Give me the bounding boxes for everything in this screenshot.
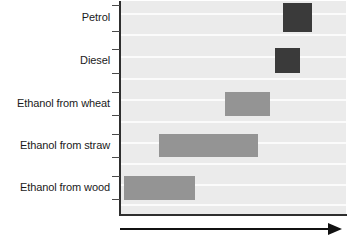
x-axis-direction-arrow xyxy=(120,222,348,236)
bar-chart: Petrol Diesel Ethanol from wheat Ethanol… xyxy=(0,0,359,237)
bar-diesel xyxy=(275,48,300,73)
gridline xyxy=(120,163,346,165)
gridline xyxy=(120,13,346,15)
y-axis-spine xyxy=(119,1,121,215)
category-label-petrol: Petrol xyxy=(82,11,110,23)
arrow-head-icon xyxy=(328,223,342,235)
bar-petrol xyxy=(283,3,312,32)
category-label-ethanol-wheat: Ethanol from wheat xyxy=(17,97,110,109)
gridline xyxy=(120,34,346,36)
gridline xyxy=(120,78,346,80)
category-label-column: Petrol Diesel Ethanol from wheat Ethanol… xyxy=(0,0,115,215)
plot-area xyxy=(120,1,346,214)
arrow-line xyxy=(120,228,332,230)
category-label-diesel: Diesel xyxy=(80,54,110,66)
x-axis-spine xyxy=(119,214,347,216)
category-label-ethanol-wood: Ethanol from wood xyxy=(20,181,110,193)
category-label-ethanol-straw: Ethanol from straw xyxy=(20,139,110,151)
bar-ethanol-wood xyxy=(124,176,195,200)
bar-ethanol-straw xyxy=(159,134,258,157)
gridline xyxy=(120,56,346,58)
gridline xyxy=(120,121,346,123)
gridline xyxy=(120,204,346,206)
bar-ethanol-wheat xyxy=(225,92,270,116)
